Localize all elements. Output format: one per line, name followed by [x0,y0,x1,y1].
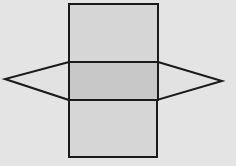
middle-rectangle-face [69,62,158,100]
bottom-rectangle-face [69,100,157,157]
top-rectangle-face [69,4,158,62]
prism-net-diagram [0,0,236,166]
